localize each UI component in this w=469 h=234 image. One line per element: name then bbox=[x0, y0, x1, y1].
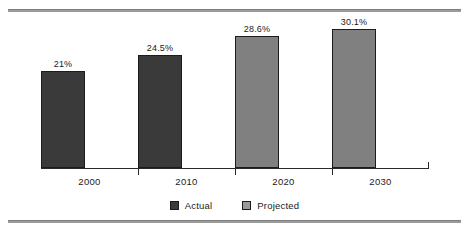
x-axis-tick bbox=[235, 169, 236, 175]
bar-value-label: 21% bbox=[25, 59, 101, 69]
bar-value-label: 28.6% bbox=[219, 24, 295, 34]
bar-2030[interactable] bbox=[332, 29, 376, 168]
legend-item-actual[interactable]: Actual bbox=[170, 200, 213, 211]
legend-swatch-icon bbox=[242, 201, 251, 210]
top-frame-rule bbox=[8, 9, 461, 12]
bottom-frame-rule bbox=[8, 220, 461, 223]
bar-2010[interactable] bbox=[138, 55, 182, 168]
bar-2000[interactable] bbox=[41, 71, 85, 168]
x-axis-label-2010: 2010 bbox=[138, 176, 235, 187]
x-axis-label-2020: 2020 bbox=[235, 176, 332, 187]
chart-legend: Actual Projected bbox=[0, 200, 469, 211]
x-axis-label-2030: 2030 bbox=[332, 176, 429, 187]
bar-2020[interactable] bbox=[235, 36, 279, 168]
bar-value-label: 30.1% bbox=[316, 17, 392, 27]
legend-item-projected[interactable]: Projected bbox=[242, 200, 299, 211]
x-axis-label-2000: 2000 bbox=[41, 176, 138, 187]
bar-group: 30.1% bbox=[332, 20, 429, 168]
legend-label-actual: Actual bbox=[185, 200, 213, 211]
legend-label-projected: Projected bbox=[257, 200, 299, 211]
legend-swatch-icon bbox=[170, 201, 179, 210]
bar-group: 28.6% bbox=[235, 20, 332, 168]
plot-area: 21% 24.5% 28.6% 30.1% bbox=[41, 20, 429, 169]
x-axis-tick bbox=[332, 169, 333, 175]
bar-value-label: 24.5% bbox=[122, 43, 198, 53]
x-axis-tick bbox=[138, 169, 139, 175]
bar-group: 24.5% bbox=[138, 20, 235, 168]
bar-chart-figure: 21% 24.5% 28.6% 30.1% 2000 2010 2020 203… bbox=[0, 0, 469, 234]
